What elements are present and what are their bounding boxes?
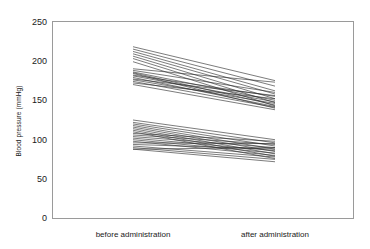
plot-frame xyxy=(53,22,354,219)
y-tick-50: 50 xyxy=(37,174,47,184)
y-tick-100: 100 xyxy=(32,135,47,145)
y-axis-title: Blood pressure (mmHg) xyxy=(15,85,23,156)
data-line xyxy=(133,137,275,148)
x-category-after: after administration xyxy=(241,230,309,239)
data-line xyxy=(133,85,275,110)
data-line xyxy=(133,83,275,99)
data-line xyxy=(133,62,275,106)
y-tick-200: 200 xyxy=(32,56,47,66)
y-axis-tick-labels: 250 200 150 100 50 0 xyxy=(32,17,47,223)
y-tick-250: 250 xyxy=(32,17,47,27)
y-tick-0: 0 xyxy=(42,213,47,223)
slope-chart: 250 200 150 100 50 0 Blood pressure (mmH… xyxy=(0,0,370,249)
data-lines-group xyxy=(133,47,275,162)
data-line xyxy=(133,80,275,104)
y-tick-150: 150 xyxy=(32,95,47,105)
x-category-before: before administration xyxy=(96,230,171,239)
data-line xyxy=(133,120,275,140)
data-line xyxy=(133,51,275,90)
chart-container: 250 200 150 100 50 0 Blood pressure (mmH… xyxy=(0,0,370,249)
